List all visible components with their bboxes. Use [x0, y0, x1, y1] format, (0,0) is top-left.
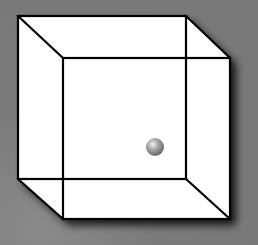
- cube-illustration: [0, 0, 258, 245]
- sphere: [146, 138, 164, 156]
- cube-diagram: [0, 0, 258, 245]
